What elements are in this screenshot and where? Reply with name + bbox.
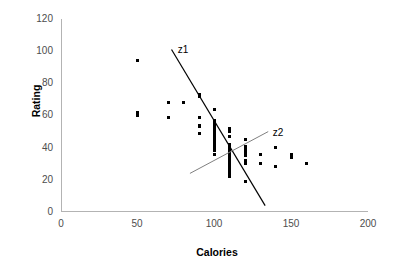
data-point: [198, 132, 201, 135]
z2-label: z2: [273, 128, 284, 138]
data-point: [244, 154, 247, 157]
data-point: [167, 101, 170, 104]
data-point: [244, 138, 247, 141]
data-point: [274, 146, 277, 149]
data-point: [167, 116, 170, 119]
data-point: [198, 125, 201, 128]
data-point: [228, 175, 231, 178]
y-axis-title: Rating: [30, 61, 42, 141]
data-point: [228, 135, 231, 138]
y-tick-label: 120: [19, 14, 53, 24]
plot-area: [61, 19, 368, 212]
data-point: [198, 95, 201, 98]
x-tick-label: 50: [117, 219, 157, 229]
data-point: [136, 59, 139, 62]
data-point: [228, 145, 231, 148]
z1-label: z1: [178, 45, 189, 55]
data-point: [213, 108, 216, 111]
x-tick-label: 0: [41, 219, 81, 229]
x-axis-title: Calories: [147, 246, 287, 258]
y-tick-label: 20: [19, 175, 53, 185]
data-point: [274, 165, 277, 168]
y-tick-label: 100: [19, 46, 53, 56]
data-point: [136, 114, 139, 117]
x-tick-label: 150: [271, 219, 311, 229]
data-point: [228, 130, 231, 133]
y-tick-label: 40: [19, 143, 53, 153]
data-point: [259, 153, 262, 156]
data-point: [244, 180, 247, 183]
data-point: [305, 162, 308, 165]
data-point: [213, 153, 216, 156]
y-tick-label: 0: [19, 207, 53, 217]
data-point: [290, 156, 293, 159]
data-point: [259, 162, 262, 165]
x-tick-label: 100: [194, 219, 234, 229]
data-point: [244, 162, 247, 165]
data-point: [198, 116, 201, 119]
data-point: [182, 101, 185, 104]
x-tick-label: 200: [348, 219, 388, 229]
scatter-chart: 120 100 80 60 40 20 0 0 50 100 150 200 R…: [0, 0, 394, 269]
